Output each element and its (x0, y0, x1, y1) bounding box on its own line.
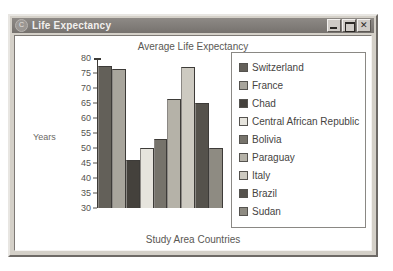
chart-legend: SwitzerlandFranceChadCentral African Rep… (231, 52, 366, 228)
y-tick-label: 70 (69, 83, 91, 93)
chart-canvas: Average Life Expectancy Years 8075706560… (14, 35, 372, 251)
legend-label: Brazil (252, 188, 277, 199)
legend-label: Sudan (252, 206, 281, 217)
legend-swatch-icon (239, 171, 248, 180)
bar-brazil[interactable] (195, 103, 209, 208)
y-tick-label: 55 (69, 128, 91, 138)
y-axis-ticks: 8075706560555045403530 (71, 58, 97, 208)
y-tick-label: 50 (69, 143, 91, 153)
legend-item[interactable]: Paraguay (239, 148, 365, 166)
legend-swatch-icon (239, 99, 248, 108)
x-axis-label: Study Area Countries (15, 234, 371, 245)
bar-bolivia[interactable] (154, 139, 168, 208)
legend-label: Paraguay (252, 152, 295, 163)
legend-item[interactable]: Switzerland (239, 58, 365, 76)
legend-label: Bolivia (252, 134, 281, 145)
plot-area: Years 8075706560555045403530 (35, 58, 225, 226)
chart-title: Average Life Expectancy (15, 41, 371, 52)
bar-chad[interactable] (126, 160, 140, 208)
legend-item[interactable]: Italy (239, 166, 365, 184)
bar-paraguay[interactable] (167, 99, 181, 209)
y-tick-label: 40 (69, 173, 91, 183)
bar-switzerland[interactable] (98, 66, 112, 209)
application-window: C Life Expectancy ✕ Average Life Expecta… (8, 14, 378, 257)
legend-label: Italy (252, 170, 270, 181)
window-title: Life Expectancy (32, 20, 111, 31)
legend-label: Central African Republic (252, 116, 359, 127)
y-tick-label: 45 (69, 158, 91, 168)
window-controls: ✕ (327, 19, 371, 32)
bar-italy[interactable] (181, 67, 195, 208)
maximize-button[interactable] (342, 19, 356, 32)
bar-sudan[interactable] (209, 148, 223, 208)
close-button[interactable]: ✕ (357, 19, 371, 32)
y-tick-label: 80 (69, 53, 91, 63)
y-tick-label: 75 (69, 68, 91, 78)
bar-central-african-republic[interactable] (140, 148, 154, 208)
legend-swatch-icon (239, 81, 248, 90)
legend-label: Chad (252, 98, 276, 109)
legend-item[interactable]: Brazil (239, 184, 365, 202)
legend-item[interactable]: Sudan (239, 202, 365, 220)
title-bar[interactable]: C Life Expectancy ✕ (12, 18, 374, 33)
legend-item[interactable]: Bolivia (239, 130, 365, 148)
app-icon: C (15, 19, 28, 32)
legend-swatch-icon (239, 189, 248, 198)
y-tick-label: 60 (69, 113, 91, 123)
legend-swatch-icon (239, 153, 248, 162)
legend-swatch-icon (239, 135, 248, 144)
legend-swatch-icon (239, 117, 248, 126)
y-tick-label: 35 (69, 188, 91, 198)
bar-france[interactable] (112, 69, 126, 209)
y-tick-label: 30 (69, 203, 91, 213)
bar-series (98, 58, 223, 208)
legend-item[interactable]: France (239, 76, 365, 94)
legend-swatch-icon (239, 63, 248, 72)
legend-swatch-icon (239, 207, 248, 216)
legend-label: Switzerland (252, 62, 304, 73)
minimize-button[interactable] (327, 19, 341, 32)
y-tick-label: 65 (69, 98, 91, 108)
y-axis-label: Years (33, 132, 56, 142)
legend-item[interactable]: Chad (239, 94, 365, 112)
legend-item[interactable]: Central African Republic (239, 112, 365, 130)
legend-label: France (252, 80, 283, 91)
